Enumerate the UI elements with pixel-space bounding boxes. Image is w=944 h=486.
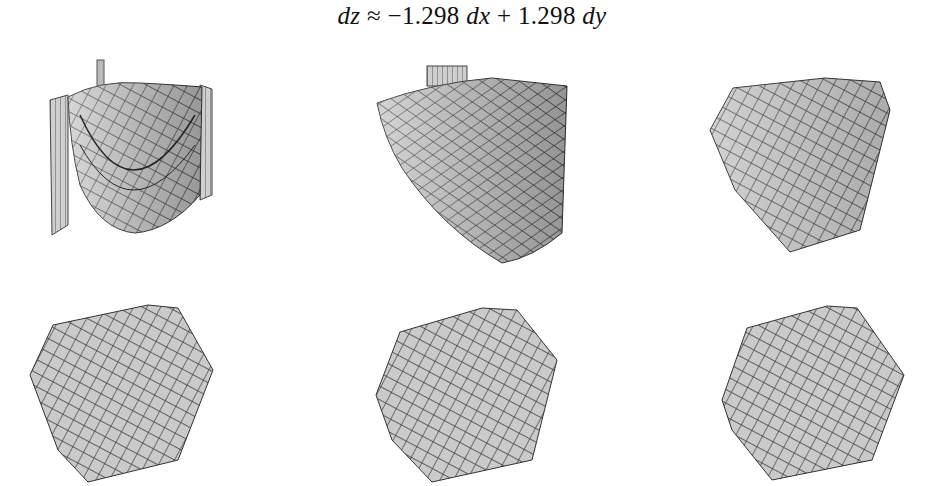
eq-op: + bbox=[497, 2, 511, 29]
surface-plot-2 bbox=[372, 58, 572, 268]
surface-plot-5 bbox=[372, 300, 572, 485]
eq-lhs: dz bbox=[338, 2, 361, 29]
eq-var-dy: dy bbox=[582, 2, 606, 29]
equation-title: dz ≈ −1.298 dx + 1.298 dy bbox=[0, 2, 944, 30]
eq-coef-dx: −1.298 bbox=[388, 2, 460, 29]
surface-plot-1 bbox=[40, 55, 240, 245]
eq-coef-dy: 1.298 bbox=[518, 2, 576, 29]
eq-var-dx: dx bbox=[466, 2, 490, 29]
surface-plot-3 bbox=[705, 70, 905, 255]
surface-plot-4 bbox=[28, 300, 228, 485]
eq-relation: ≈ bbox=[367, 2, 381, 29]
surface-plot-6 bbox=[712, 300, 912, 485]
